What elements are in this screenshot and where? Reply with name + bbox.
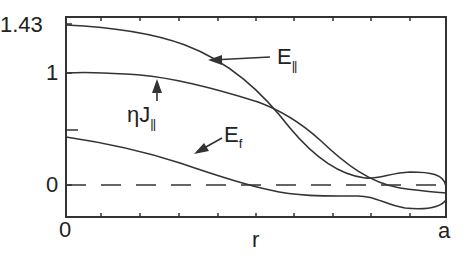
arrow-eta-j-parallel (152, 79, 162, 101)
label-eta-j-sub: || (150, 116, 155, 131)
label-e-parallel: E|| (277, 46, 296, 72)
y-axis-ticks (66, 24, 78, 185)
y-tick-label-1.43: 1.43 (0, 14, 43, 36)
x-axis-label: r (252, 229, 259, 251)
y-tick-label-1: 1 (46, 62, 58, 84)
label-eta-j-parallel: ηJ|| (127, 104, 155, 130)
arrow-e-f (194, 138, 222, 154)
y-tick-label-0: 0 (46, 174, 58, 196)
curve-e-f (66, 137, 446, 209)
label-e-f-main: E (224, 122, 239, 147)
label-e-parallel-main: E (277, 44, 292, 69)
x-tick-label-0: 0 (59, 219, 71, 241)
label-e-parallel-sub: || (292, 58, 297, 73)
arrow-e-parallel (208, 55, 270, 65)
curve-e-parallel (66, 25, 446, 186)
x-tick-label-a: a (438, 220, 450, 242)
label-e-f: Ef (224, 124, 241, 150)
label-eta-j-main: ηJ (127, 102, 150, 127)
label-e-f-sub: f (239, 136, 242, 151)
